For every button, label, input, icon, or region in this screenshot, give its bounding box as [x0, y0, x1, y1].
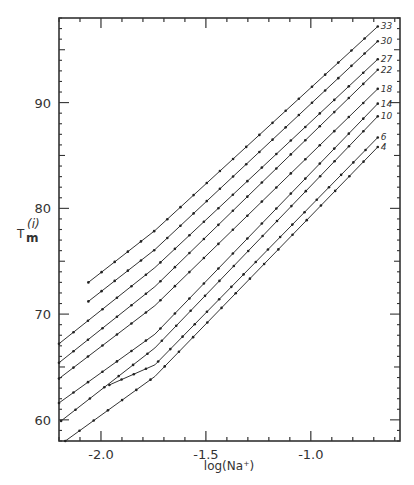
data-point	[324, 73, 327, 76]
data-point	[87, 381, 90, 384]
data-point	[319, 112, 322, 115]
data-point	[87, 319, 90, 322]
data-point	[290, 139, 293, 142]
data-point	[107, 409, 110, 412]
data-point	[116, 333, 119, 336]
data-point	[319, 162, 322, 165]
series-label: 33	[381, 21, 393, 31]
data-point	[261, 166, 264, 169]
data-point	[275, 207, 278, 210]
data-point	[113, 261, 116, 264]
data-point	[362, 160, 365, 163]
data-point	[130, 322, 133, 325]
data-point	[284, 126, 287, 129]
data-point	[217, 224, 220, 227]
data-point	[116, 315, 119, 318]
data-point	[290, 192, 293, 195]
data-point	[337, 77, 340, 80]
data-point	[135, 389, 138, 392]
data-point	[245, 163, 248, 166]
data-point	[92, 419, 95, 422]
data-point	[145, 292, 148, 295]
data-point	[376, 25, 379, 28]
series-label: 6	[381, 132, 387, 142]
data-point	[145, 311, 148, 314]
x-tick-label: -2.0	[88, 447, 113, 462]
data-point	[101, 327, 104, 330]
data-point	[179, 206, 182, 209]
data-point	[263, 263, 266, 266]
data-point	[193, 323, 196, 326]
data-point	[376, 88, 379, 91]
data-point	[58, 377, 61, 380]
data-point	[174, 248, 177, 251]
data-point	[169, 348, 172, 351]
data-point	[348, 175, 351, 178]
data-point	[87, 300, 90, 303]
data-point	[117, 375, 120, 378]
data-point	[276, 220, 279, 223]
data-point	[376, 58, 379, 61]
data-point	[175, 324, 178, 327]
data-point	[298, 114, 301, 117]
data-point	[203, 238, 206, 241]
data-point	[188, 297, 191, 300]
series-label: 4	[381, 142, 387, 152]
data-point	[246, 237, 249, 240]
data-point	[246, 195, 249, 198]
y-tick-label: 60	[34, 413, 51, 428]
data-point	[130, 285, 133, 288]
data-point	[87, 355, 90, 358]
data-point	[303, 211, 306, 214]
data-point	[324, 89, 327, 92]
data-point	[279, 236, 282, 239]
data-point	[78, 429, 81, 432]
data-point	[348, 145, 351, 148]
data-point	[275, 167, 278, 170]
data-point	[149, 378, 152, 381]
data-point	[284, 109, 287, 112]
data-point	[188, 252, 191, 255]
data-point	[376, 115, 379, 118]
data-point	[58, 402, 61, 405]
data-point	[245, 146, 248, 149]
data-point	[376, 136, 379, 139]
data-point	[64, 440, 67, 443]
data-point	[258, 134, 261, 137]
data-point	[304, 158, 307, 161]
data-point	[232, 175, 235, 178]
data-point	[74, 408, 77, 411]
series-line-14: 14	[58, 99, 393, 405]
y-tick-label: 90	[34, 96, 51, 111]
data-point	[188, 271, 191, 274]
plot-border	[59, 18, 400, 441]
data-point	[174, 312, 177, 315]
data-point	[174, 266, 177, 269]
data-point	[218, 298, 221, 301]
data-point	[291, 233, 294, 236]
data-point	[103, 386, 106, 389]
data-point	[347, 116, 350, 119]
series-label: 22	[381, 65, 393, 75]
data-point	[188, 234, 191, 237]
data-point	[217, 267, 220, 270]
data-point	[271, 122, 274, 125]
data-point	[206, 321, 209, 324]
series-label: 10	[381, 111, 393, 121]
data-point	[340, 174, 343, 177]
data-point	[304, 177, 307, 180]
data-point	[159, 299, 162, 302]
data-point	[100, 290, 103, 293]
data-point	[145, 339, 148, 342]
data-point	[192, 194, 195, 197]
data-point	[159, 261, 162, 264]
data-point	[130, 304, 133, 307]
data-point	[205, 182, 208, 185]
data-point	[87, 281, 90, 284]
y-axis-label-sup: (i)	[27, 217, 40, 231]
data-point	[363, 37, 366, 40]
data-series: 3330272218141064	[58, 21, 393, 442]
data-point	[319, 175, 322, 178]
data-point	[333, 111, 336, 114]
data-point	[58, 361, 61, 364]
